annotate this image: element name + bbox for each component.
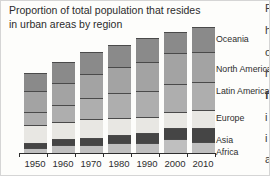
bar-segment-africa-1970 bbox=[80, 145, 103, 153]
truncated-text-fragment: i bbox=[265, 132, 267, 144]
bar-segment-latin-america-2000 bbox=[164, 84, 187, 112]
x-axis-tick bbox=[187, 154, 188, 157]
bar-segment-oceania-2000 bbox=[164, 32, 187, 53]
bar-segment-oceania-1950 bbox=[24, 73, 47, 91]
bar-segment-latin-america-1950 bbox=[24, 112, 47, 125]
bar-segment-latin-america-1980 bbox=[108, 93, 131, 118]
bar-segment-europe-1950 bbox=[24, 125, 47, 143]
bar-segment-oceania-1960 bbox=[52, 62, 75, 83]
bar-segment-asia-2010 bbox=[192, 128, 215, 142]
bar-segment-europe-2010 bbox=[192, 110, 215, 128]
x-axis-tick bbox=[103, 154, 104, 157]
bar-segment-north-america-1970 bbox=[80, 74, 103, 98]
truncated-text-fragment: h bbox=[265, 67, 270, 79]
bar-segment-latin-america-1970 bbox=[80, 98, 103, 119]
x-axis-tick bbox=[19, 154, 20, 157]
bar-segment-asia-2000 bbox=[164, 128, 187, 139]
bar-segment-oceania-2010 bbox=[192, 27, 215, 52]
bar-segment-latin-america-1990 bbox=[136, 91, 159, 117]
x-tick-label-1980: 1980 bbox=[105, 158, 133, 169]
bar-segment-africa-1990 bbox=[136, 143, 159, 153]
truncated-text-fragment: o bbox=[265, 46, 270, 58]
bar-segment-north-america-1960 bbox=[52, 83, 75, 105]
bar-segment-oceania-1970 bbox=[80, 52, 103, 74]
truncated-text-fragment: h bbox=[265, 24, 270, 36]
bar-segment-north-america-1950 bbox=[24, 91, 47, 112]
bar-segment-africa-1960 bbox=[52, 145, 75, 153]
bar-segment-latin-america-1960 bbox=[52, 105, 75, 122]
legend-label-africa: Africa bbox=[216, 147, 239, 157]
bar-segment-africa-2010 bbox=[192, 142, 215, 153]
bar-segment-asia-1950 bbox=[24, 143, 47, 148]
x-tick-label-2010: 2010 bbox=[189, 158, 217, 169]
bar-segment-north-america-1980 bbox=[108, 67, 131, 93]
bar-segment-africa-2000 bbox=[164, 139, 187, 153]
chart-panel: Proportion of total population that resi… bbox=[0, 0, 270, 176]
truncated-paragraph: Phohfiia bbox=[264, 1, 270, 176]
legend-label-asia: Asia bbox=[216, 135, 233, 145]
x-tick-label-1970: 1970 bbox=[77, 158, 105, 169]
x-tick-label-1990: 1990 bbox=[133, 158, 161, 169]
bar-segment-europe-2000 bbox=[164, 112, 187, 128]
legend-label-europe: Europe bbox=[216, 113, 244, 123]
legend-label-oceania: Oceania bbox=[216, 34, 249, 44]
bar-segment-latin-america-2010 bbox=[192, 82, 215, 110]
bar-segment-africa-1980 bbox=[108, 143, 131, 153]
x-tick-label-2000: 2000 bbox=[161, 158, 189, 169]
legend-label-north-america: North America bbox=[216, 64, 270, 74]
x-tick-label-1960: 1960 bbox=[49, 158, 77, 169]
bar-segment-asia-1970 bbox=[80, 138, 103, 145]
truncated-text-fragment: f bbox=[265, 89, 269, 101]
bar-segment-oceania-1990 bbox=[136, 38, 159, 62]
bar-segment-europe-1960 bbox=[52, 122, 75, 139]
legend-label-latin-america: Latin America bbox=[216, 86, 269, 96]
bar-segment-oceania-1980 bbox=[108, 45, 131, 67]
bar-segment-asia-1990 bbox=[136, 133, 159, 143]
x-axis-tick bbox=[131, 154, 132, 157]
truncated-text-fragment: P bbox=[265, 2, 270, 14]
bar-segment-europe-1970 bbox=[80, 119, 103, 138]
bar-segment-asia-1980 bbox=[108, 135, 131, 143]
x-axis-tick bbox=[159, 154, 160, 157]
bar-segment-north-america-2000 bbox=[164, 53, 187, 84]
x-axis-tick bbox=[47, 154, 48, 157]
stacked-bar-chart bbox=[21, 1, 217, 153]
bar-segment-north-america-1990 bbox=[136, 62, 159, 91]
bar-segment-europe-1980 bbox=[108, 118, 131, 135]
truncated-text-fragment: i bbox=[265, 111, 267, 123]
truncated-text-fragment: a bbox=[265, 153, 270, 165]
bar-segment-asia-1960 bbox=[52, 139, 75, 145]
x-tick-label-1950: 1950 bbox=[21, 158, 49, 169]
x-axis-tick bbox=[75, 154, 76, 157]
bar-segment-north-america-2010 bbox=[192, 52, 215, 82]
bar-segment-europe-1990 bbox=[136, 117, 159, 133]
